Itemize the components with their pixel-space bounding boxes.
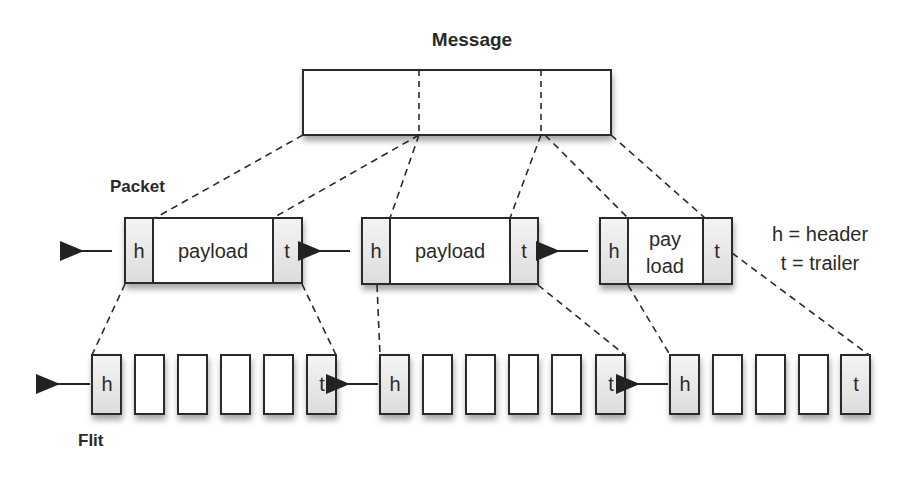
message-packet-flit-diagram: Message Packet h payload t h payload t h <box>0 0 916 477</box>
flit-3-head: h <box>679 373 690 395</box>
packet-2-trailer: t <box>521 240 527 262</box>
message-to-packet-connectors <box>155 135 705 218</box>
flit-3-tail: t <box>853 373 859 395</box>
message-title: Message <box>432 29 512 50</box>
legend-trailer: t = trailer <box>781 252 860 274</box>
flit-2-head: h <box>389 373 400 395</box>
flit-group-3 <box>670 355 870 414</box>
flit-2-tail: t <box>608 373 614 395</box>
flit-label: Flit <box>78 431 104 450</box>
packet-label: Packet <box>110 177 165 196</box>
flit-group-2 <box>380 355 625 414</box>
packet-1-payload: payload <box>178 240 248 262</box>
packet-2-header: h <box>370 240 381 262</box>
packet-2-payload: payload <box>415 240 485 262</box>
flit-group-1 <box>92 355 336 414</box>
packet-1-header: h <box>133 240 144 262</box>
packet-1-trailer: t <box>284 240 290 262</box>
legend-header: h = header <box>772 223 869 245</box>
packet-3-trailer: t <box>714 240 720 262</box>
message-box <box>303 70 611 135</box>
packet-3-payload-line2: load <box>646 255 684 277</box>
packet-3-payload-line1: pay <box>649 228 681 250</box>
flit-1-tail: t <box>319 373 325 395</box>
flit-1-head: h <box>101 373 112 395</box>
packet-3-header: h <box>608 240 619 262</box>
